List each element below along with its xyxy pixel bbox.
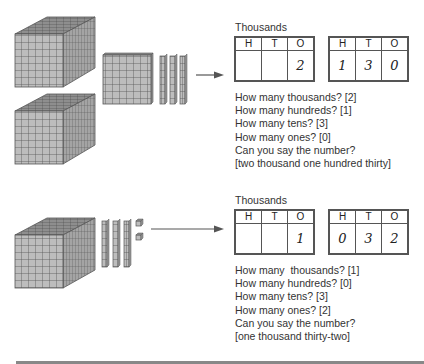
header-ones: O [382,38,408,51]
value-tens: 3 [356,51,382,81]
value-hundreds [236,51,262,81]
thousand-cube-3 [15,218,95,288]
units-place-chart: H T O 0 3 2 [328,209,409,255]
question-ones: How many ones? [2] [235,304,359,317]
value-hundreds: 0 [330,224,356,254]
question-say-number: Can you say the number? [235,144,391,157]
value-hundreds: 1 [330,51,356,81]
ten-rods-1 [160,54,187,104]
question-list: How many thousands? [1] How many hundred… [235,264,359,343]
thousands-label: Thousands [235,194,287,206]
value-hundreds [236,224,262,254]
value-ones: 1 [288,224,314,254]
thousands-label: Thousands [235,21,287,33]
question-say-number: Can you say the number? [235,317,359,330]
header-ones: O [288,211,314,224]
question-tens: How many tens? [3] [235,117,391,130]
header-hundreds: H [236,211,262,224]
header-hundreds: H [330,38,356,51]
value-ones: 2 [288,51,314,81]
question-hundreds: How many hundreds? [1] [235,104,391,117]
header-ones: O [382,211,408,224]
header-tens: T [262,38,288,51]
question-thousands: How many thousands? [2] [235,91,391,104]
question-tens: How many tens? [3] [235,290,359,303]
value-ones: 2 [382,224,408,254]
thousand-cube-1 [15,17,95,87]
value-tens [262,51,288,81]
thousands-place-chart: H T O 1 [234,209,315,255]
value-tens [262,224,288,254]
one-cubes [136,219,143,240]
header-hundreds: H [236,38,262,51]
units-place-chart: H T O 1 3 0 [328,36,409,82]
question-thousands: How many thousands? [1] [235,264,359,277]
header-tens: T [356,38,382,51]
arrow-right-icon [196,72,224,79]
thousand-cube-2 [15,94,95,164]
header-tens: T [262,211,288,224]
thousands-place-chart: H T O 2 [234,36,315,82]
ten-rods-2 [102,219,131,267]
hundred-flat [103,53,153,104]
value-ones: 0 [382,51,408,81]
answer-number-words: [one thousand thirty-two] [235,330,359,343]
question-ones: How many ones? [0] [235,131,391,144]
answer-number-words: [two thousand one hundred thirty] [235,157,391,170]
value-tens: 3 [356,224,382,254]
header-hundreds: H [330,211,356,224]
question-hundreds: How many hundreds? [0] [235,277,359,290]
header-ones: O [288,38,314,51]
header-tens: T [356,211,382,224]
question-list: How many thousands? [2] How many hundred… [235,91,391,170]
arrow-right-icon [151,226,224,233]
